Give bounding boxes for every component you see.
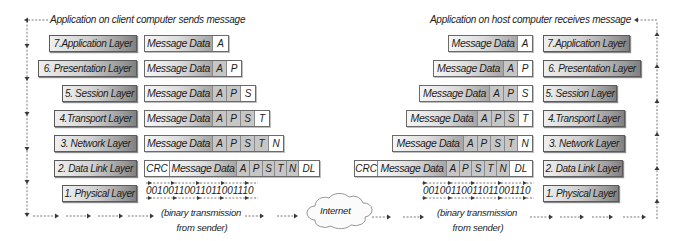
header-presentation: P — [518, 61, 532, 76]
host-transmission-caption-line2: from sender) — [428, 222, 528, 234]
message-data: Message Data — [407, 111, 478, 126]
client-layer-2-data-link: 2. Data Link Layer — [54, 160, 137, 177]
client-layer-5-session: 5. Session Layer — [62, 85, 137, 102]
host-layer-5-session: 5. Session Layer — [543, 85, 617, 102]
header-application: A — [447, 161, 460, 176]
host-layer-6-presentation: 6. Presentation Layer — [543, 60, 641, 77]
message-data: Message Data — [145, 136, 213, 151]
header-transport: T — [505, 136, 519, 151]
header-presentation: P — [227, 61, 241, 76]
header-presentation: P — [227, 86, 241, 101]
message-data: Message Data — [170, 161, 237, 176]
client-transmission-caption-line1: (binary transmission — [151, 207, 251, 219]
host-transmission-caption-line1: (binary transmission — [427, 207, 527, 219]
header-application: A — [213, 36, 228, 51]
header-data-link: DL — [299, 161, 319, 176]
message-data: Message Data — [145, 61, 213, 76]
header-application: A — [213, 136, 227, 151]
header-application: A — [518, 36, 532, 51]
message-data: Message Data — [434, 61, 504, 76]
header-session: S — [263, 161, 275, 176]
host-layer-7-application: 7.Application Layer — [543, 35, 630, 52]
client-layer-6-presentation: 6. Presentation Layer — [38, 60, 137, 77]
header-session: S — [518, 86, 532, 101]
client-packet-network: Message Data A P S T N — [144, 135, 284, 152]
header-transport: T — [255, 136, 269, 151]
header-presentation: P — [504, 86, 518, 101]
client-packet-presentation: Message Data A P — [144, 60, 242, 77]
header-presentation: P — [227, 111, 241, 126]
header-network: N — [497, 161, 510, 176]
internet-label: Internet — [320, 205, 351, 217]
header-session: S — [241, 86, 255, 101]
header-presentation: P — [460, 161, 473, 176]
header-application: A — [490, 86, 504, 101]
header-session: S — [505, 111, 519, 126]
header-network: N — [287, 161, 299, 176]
message-data: Message Data — [145, 111, 213, 126]
host-packet-presentation: Message Data A P — [433, 60, 533, 77]
header-transport: T — [275, 161, 287, 176]
message-data: Message Data — [145, 36, 213, 51]
client-packet-transport: Message Data A P S T — [144, 110, 270, 127]
host-caption: Application on host computer receives me… — [430, 14, 631, 26]
host-layer-1-physical: 1. Physical Layer — [543, 185, 619, 202]
header-transport: T — [255, 111, 269, 126]
header-network: N — [269, 136, 283, 151]
client-layer-1-physical: 1. Physical Layer — [62, 185, 137, 202]
client-packet-session: Message Data A P S — [144, 85, 256, 102]
message-data: Message Data — [420, 86, 490, 101]
header-presentation: P — [227, 136, 241, 151]
host-layer-2-data-link: 2. Data Link Layer — [543, 160, 623, 177]
client-frame-data-link: CRC Message Data A P S T N DL — [144, 160, 320, 177]
header-application: A — [213, 86, 227, 101]
client-packet-application: Message Data A — [144, 35, 229, 52]
client-transmission-caption-line2: from sender) — [152, 222, 252, 234]
trailer-crc: CRC — [355, 161, 378, 176]
message-data: Message Data — [145, 86, 213, 101]
header-application: A — [237, 161, 250, 176]
header-session: S — [491, 136, 505, 151]
header-application: A — [478, 111, 492, 126]
header-transport: T — [485, 161, 498, 176]
host-frame-data-link: CRC Message Data A P S T N DL — [354, 160, 533, 177]
host-binary-bits: 00100110011011001110 — [423, 185, 531, 197]
header-session: S — [241, 136, 255, 151]
header-presentation: P — [492, 111, 506, 126]
header-session: S — [472, 161, 485, 176]
client-layer-4-transport: 4.Transport Layer — [54, 110, 137, 127]
message-data: Message Data — [393, 136, 464, 151]
host-packet-network: Message Data A P S T N — [392, 135, 533, 152]
client-layer-3-network: 3. Network Layer — [54, 135, 137, 152]
header-session: S — [241, 111, 255, 126]
header-application: A — [213, 61, 227, 76]
header-network: N — [518, 136, 532, 151]
trailer-crc: CRC — [145, 161, 170, 176]
header-presentation: P — [478, 136, 492, 151]
header-application: A — [213, 111, 227, 126]
header-data-link: DL — [510, 161, 532, 176]
osi-encapsulation-diagram: Application on client computer sends mes… — [0, 0, 679, 241]
host-layer-4-transport: 4.Transport Layer — [543, 110, 625, 127]
message-data: Message Data — [378, 161, 447, 176]
host-layer-3-network: 3. Network Layer — [543, 135, 625, 152]
client-layer-7-application: 7.Application Layer — [49, 35, 137, 52]
header-transport: T — [519, 111, 533, 126]
header-application: A — [464, 136, 478, 151]
client-caption: Application on client computer sends mes… — [50, 14, 245, 26]
host-packet-transport: Message Data A P S T — [406, 110, 533, 127]
header-presentation: P — [250, 161, 263, 176]
header-application: A — [504, 61, 518, 76]
host-packet-application: Message Data A — [448, 35, 533, 52]
message-data: Message Data — [449, 36, 518, 51]
host-packet-session: Message Data A P S — [419, 85, 533, 102]
client-binary-bits: 00100110011011001110 — [146, 185, 254, 197]
